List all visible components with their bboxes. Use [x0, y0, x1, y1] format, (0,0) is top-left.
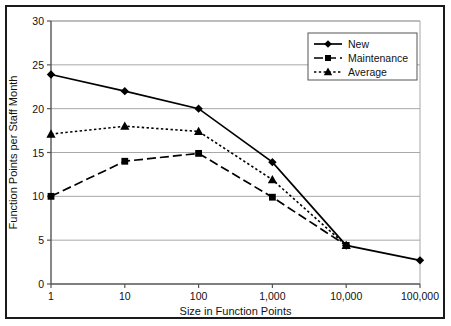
- line-chart: 0510152025301101001,00010,000100,000Size…: [0, 0, 451, 326]
- marker-square: [195, 150, 202, 157]
- chart-figure: 0510152025301101001,00010,000100,000Size…: [0, 0, 451, 326]
- y-tick-label-30: 30: [32, 15, 44, 27]
- y-tick-label-25: 25: [32, 59, 44, 71]
- legend-label-new: New: [348, 38, 369, 50]
- y-tick-label-5: 5: [38, 234, 44, 246]
- x-tick-label-3: 1,000: [259, 290, 285, 302]
- x-tick-label-2: 100: [190, 290, 208, 302]
- y-tick-label-10: 10: [32, 190, 44, 202]
- legend-label-maintenance: Maintenance: [348, 52, 408, 64]
- y-axis: 051015202530: [32, 15, 51, 290]
- marker-square: [121, 158, 128, 165]
- marker-square: [325, 55, 331, 61]
- legend-label-average: Average: [348, 66, 387, 78]
- x-axis: 1101001,00010,000100,000: [48, 284, 439, 302]
- x-axis-title: Size in Function Points: [180, 305, 292, 317]
- legend: NewMaintenanceAverage: [308, 33, 417, 80]
- x-tick-label-4: 10,000: [330, 290, 362, 302]
- marker-square: [269, 194, 276, 201]
- x-tick-label-1: 10: [119, 290, 131, 302]
- x-tick-label-5: 100,000: [401, 290, 439, 302]
- x-tick-label-0: 1: [48, 290, 54, 302]
- y-tick-label-15: 15: [32, 147, 44, 159]
- marker-square: [48, 193, 55, 200]
- y-tick-label-20: 20: [32, 103, 44, 115]
- y-axis-title: Function Points per Staff Month: [7, 76, 19, 230]
- y-tick-label-0: 0: [38, 278, 44, 290]
